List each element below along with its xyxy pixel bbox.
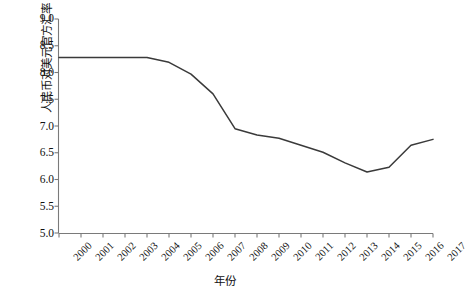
data-series-line xyxy=(59,58,433,172)
axes xyxy=(55,19,434,238)
x-axis-ticks xyxy=(59,234,433,238)
x-axis-title: 年份 xyxy=(0,272,450,288)
y-axis-ticks xyxy=(55,19,59,233)
